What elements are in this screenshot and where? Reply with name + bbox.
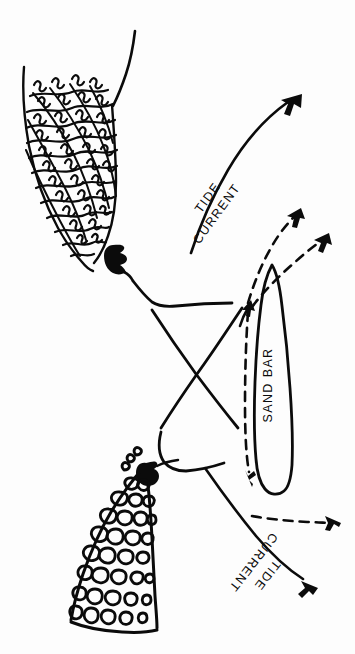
canvas-background xyxy=(0,0,355,654)
sand-bar-label-text: SAND BAR xyxy=(261,347,275,422)
sand-bar-label: SAND BAR xyxy=(261,347,275,422)
figure-canvas: SAND BAR TIDE CURRENT xyxy=(0,0,355,654)
tidal-inlet-sketch: SAND BAR TIDE CURRENT xyxy=(0,0,355,654)
